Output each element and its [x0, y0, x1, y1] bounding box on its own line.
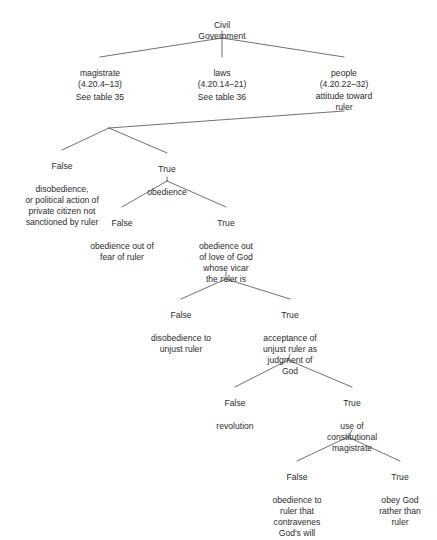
node-true-obedience-love-of-god[interactable]: True obedience out of love of God whose … [174, 207, 278, 297]
node-true-acceptance-unjust-ruler[interactable]: True acceptance of unjust ruler as judgm… [238, 299, 342, 389]
note-see-table-36: See table 36 [162, 92, 282, 103]
branch-label-true-constitutional-magistrate: True [302, 398, 402, 409]
node-false-revolution[interactable]: False revolution [185, 387, 285, 443]
edge-junction-to-false-disobedience [62, 128, 109, 150]
node-civil-government[interactable]: Civil Government [162, 9, 282, 54]
node-false-disobedience-unjust-ruler[interactable]: False disobedience to unjust ruler [129, 299, 233, 366]
node-false-revolution-text: revolution [185, 421, 285, 432]
branch-label-false-obedience-contravenes: False [247, 472, 347, 483]
node-true-obey-god[interactable]: True obey God rather than ruler [354, 461, 437, 539]
branch-label-false-revolution: False [185, 398, 285, 409]
branch-label-false-disobedience-unjust-ruler: False [129, 310, 233, 321]
branch-label-false-obedience-fear: False [67, 218, 177, 229]
node-false-disobedience-unjust-ruler-text: disobedience to unjust ruler [129, 333, 233, 355]
branch-label-true-obedience-love-of-god: True [174, 218, 278, 229]
node-magistrate-text: magistrate (4.20.4–13) [40, 68, 160, 90]
node-laws-text: laws (4.20.14–21) [162, 68, 282, 90]
branch-label-true-obey-god: True [354, 472, 437, 483]
node-civil-government-text: Civil Government [162, 20, 282, 42]
node-false-obedience-fear[interactable]: False obedience out of fear of ruler [67, 207, 177, 274]
node-true-obedience-love-of-god-text: obedience out of love of God whose vicar… [174, 241, 278, 286]
node-people[interactable]: people (4.20.22–32) attitude toward rule… [279, 57, 409, 124]
branch-label-true-acceptance-unjust-ruler: True [238, 310, 342, 321]
node-false-obedience-fear-text: obedience out of fear of ruler [67, 241, 177, 263]
node-people-text: people (4.20.22–32) attitude toward rule… [279, 68, 409, 113]
node-true-acceptance-unjust-ruler-text: acceptance of unjust ruler as judgment o… [238, 333, 342, 378]
branch-label-false-disobedience: False [0, 161, 124, 172]
node-false-obedience-contravenes[interactable]: False obedience to ruler that contravene… [247, 461, 347, 540]
node-true-obey-god-text: obey God rather than ruler [354, 495, 437, 529]
node-true-constitutional-magistrate[interactable]: True use of constitutional magistrate [302, 387, 402, 465]
node-true-constitutional-magistrate-text: use of constitutional magistrate [302, 421, 402, 455]
branch-label-true-obedience: True [112, 164, 222, 175]
node-false-obedience-contravenes-text: obedience to ruler that contravenes God'… [247, 495, 347, 540]
node-true-obedience-text: obedience [112, 187, 222, 198]
node-true-obedience[interactable]: True obedience [112, 153, 222, 209]
note-see-table-35: See table 35 [40, 92, 160, 103]
